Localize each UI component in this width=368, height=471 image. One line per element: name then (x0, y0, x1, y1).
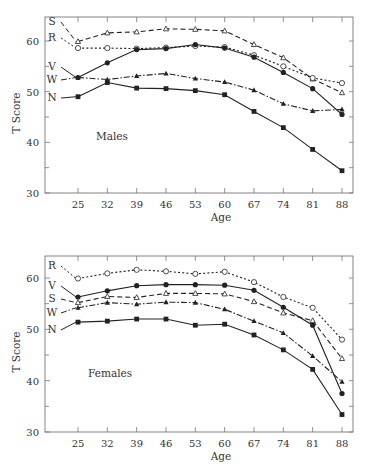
filled-square-marker (310, 147, 315, 152)
x-axis-title: Age (210, 450, 232, 462)
series-r: R (48, 31, 345, 86)
open-circle-marker (251, 280, 256, 285)
label-leader (61, 266, 76, 279)
x-tick-label: 81 (306, 438, 319, 449)
open-circle-marker (134, 267, 139, 272)
filled-square-marker (252, 109, 257, 114)
series-line (78, 45, 342, 115)
chart-panel-females: 2532394653606774818830405060AgeT ScoreFe… (10, 256, 353, 462)
filled-square-marker (340, 412, 345, 417)
open-circle-marker (105, 271, 110, 276)
filled-circle-marker (75, 294, 80, 299)
x-axis-title: Age (210, 211, 232, 223)
filled-circle-marker (105, 60, 110, 65)
filled-square-marker (164, 317, 169, 322)
filled-circle-marker (163, 46, 168, 51)
y-tick-label: 30 (26, 427, 39, 438)
series-s: S (48, 15, 344, 95)
series-label: N (47, 91, 56, 103)
x-tick-label: 32 (101, 199, 114, 210)
filled-square-marker (105, 80, 110, 85)
open-circle-marker (310, 75, 315, 80)
open-circle-marker (75, 45, 80, 50)
filled-circle-marker (134, 47, 139, 52)
filled-square-marker (193, 88, 198, 93)
filled-circle-marker (105, 288, 110, 293)
filled-square-marker (252, 333, 257, 338)
filled-triangle-marker (222, 79, 227, 84)
y-axis-title: T Score (10, 93, 22, 134)
series-label: V (47, 279, 56, 291)
label-leader (61, 38, 76, 48)
series-label: W (47, 306, 58, 318)
filled-circle-marker (281, 70, 286, 75)
filled-square-marker (76, 320, 81, 325)
label-leader (61, 299, 76, 303)
series-line (78, 46, 342, 83)
filled-triangle-marker (163, 71, 168, 76)
filled-circle-marker (339, 391, 344, 396)
open-triangle-marker (310, 318, 315, 323)
y-tick-label: 40 (26, 137, 39, 148)
chart-canvas: 2532394653606774818830405060AgeT ScoreMa… (0, 0, 368, 471)
series-n: N (47, 80, 344, 173)
plot-frame (45, 17, 353, 193)
x-tick-label: 25 (72, 438, 85, 449)
filled-square-marker (76, 94, 81, 99)
label-leader (61, 286, 76, 297)
x-tick-label: 32 (101, 438, 114, 449)
x-tick-label: 67 (248, 438, 261, 449)
open-circle-marker (163, 269, 168, 274)
series-label: R (48, 259, 57, 271)
open-circle-marker (310, 305, 315, 310)
open-circle-marker (75, 276, 80, 281)
filled-circle-marker (193, 42, 198, 47)
filled-square-marker (105, 319, 110, 324)
x-tick-label: 25 (72, 199, 85, 210)
y-tick-label: 50 (26, 87, 39, 98)
filled-circle-marker (222, 45, 227, 50)
label-leader (61, 22, 76, 42)
x-tick-label: 88 (336, 199, 349, 210)
open-triangle-marker (281, 310, 286, 315)
x-tick-label: 81 (306, 199, 319, 210)
series-line (78, 83, 342, 171)
series-label: S (48, 15, 55, 27)
x-tick-label: 88 (336, 438, 349, 449)
open-circle-marker (105, 45, 110, 50)
x-tick-label: 39 (130, 438, 143, 449)
filled-circle-marker (251, 55, 256, 60)
filled-circle-marker (310, 86, 315, 91)
filled-square-marker (310, 367, 315, 372)
series-label: R (48, 31, 57, 43)
series-label: V (47, 60, 56, 72)
series-label: N (47, 323, 56, 335)
y-axis-title: T Score (10, 332, 22, 373)
open-triangle-marker (339, 90, 344, 95)
open-circle-marker (222, 269, 227, 274)
label-leader (61, 97, 76, 98)
panel-label-females: Females (88, 367, 132, 379)
filled-circle-marker (281, 305, 286, 310)
x-tick-label: 53 (189, 199, 202, 210)
plot-frame (45, 256, 353, 432)
y-tick-label: 50 (26, 324, 39, 335)
y-tick-label: 40 (26, 376, 39, 387)
label-leader (61, 77, 76, 80)
x-tick-label: 46 (160, 438, 173, 449)
open-circle-marker (281, 294, 286, 299)
x-tick-label: 39 (130, 199, 143, 210)
filled-square-marker (193, 323, 198, 328)
filled-square-marker (281, 347, 286, 352)
open-triangle-marker (105, 294, 110, 299)
filled-circle-marker (163, 282, 168, 287)
x-tick-label: 53 (189, 438, 202, 449)
x-tick-label: 74 (277, 438, 290, 449)
x-tick-label: 60 (218, 438, 231, 449)
chart-panel-males: 2532394653606774818830405060AgeT ScoreMa… (10, 15, 353, 223)
filled-circle-marker (193, 282, 198, 287)
panel-label-males: Males (96, 130, 128, 142)
series-label: W (47, 73, 58, 85)
open-circle-marker (339, 337, 344, 342)
filled-circle-marker (339, 112, 344, 117)
